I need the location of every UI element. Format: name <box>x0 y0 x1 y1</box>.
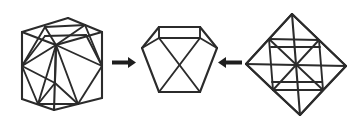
arrow-cube-to-hexagon <box>112 57 136 68</box>
arrow-octahedron-to-hexagon <box>218 57 242 68</box>
figure-canvas <box>0 0 357 125</box>
hexagon-panel <box>142 27 217 92</box>
octahedron-panel <box>246 14 346 115</box>
hexagon-inner-edges <box>142 27 217 92</box>
hexagon-outline <box>142 27 217 92</box>
cube-panel <box>22 18 102 110</box>
geometry-figure: Cuboctahedron as common truncation of cu… <box>0 0 357 125</box>
